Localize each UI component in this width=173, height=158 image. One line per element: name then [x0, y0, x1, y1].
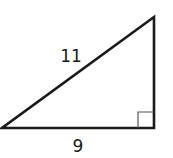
right-triangle [2, 17, 154, 128]
triangle-diagram: 11 9 [0, 0, 173, 158]
hypotenuse-label: 11 [60, 46, 82, 66]
right-angle-marker [138, 112, 154, 128]
base-label: 9 [73, 136, 84, 156]
